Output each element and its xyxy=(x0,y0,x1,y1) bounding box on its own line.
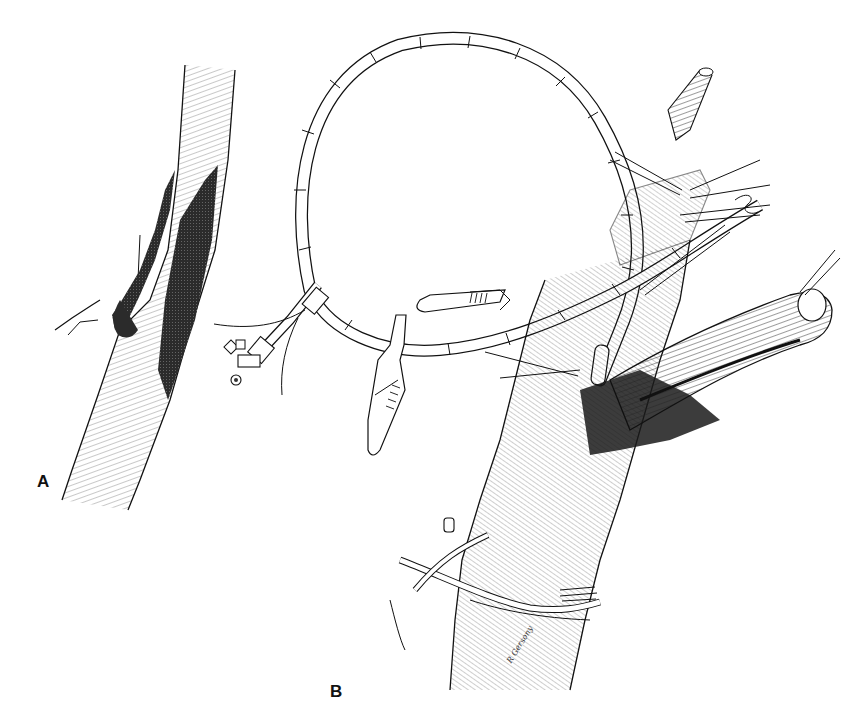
hemostat-clamp[interactable] xyxy=(368,315,406,455)
panel-a-vessel xyxy=(55,65,235,510)
medical-illustration xyxy=(0,0,854,714)
stopcock-connector[interactable] xyxy=(214,285,329,395)
panel-label-b: B xyxy=(330,682,342,702)
bulldog-clamp[interactable] xyxy=(417,290,510,312)
illustration-canvas: A B R Gersony xyxy=(0,0,854,714)
panel-label-a: A xyxy=(37,472,49,492)
